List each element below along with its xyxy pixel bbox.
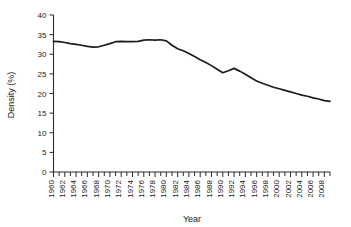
x-axis-title: Year (183, 214, 201, 224)
chart-container: 0510152025303540 19601962196419661968197… (0, 0, 351, 227)
x-tick-label: 1980 (159, 179, 168, 197)
series-line-density (54, 40, 331, 102)
x-tick-label: 2006 (306, 179, 315, 197)
y-tick-label: 20 (38, 90, 47, 99)
x-tick-label: 1990 (216, 179, 225, 197)
y-tick-label: 5 (42, 148, 47, 157)
y-tick-label: 10 (38, 129, 47, 138)
x-tick-label: 1966 (80, 179, 89, 197)
y-tick-label: 15 (38, 109, 47, 118)
y-tick-label: 0 (42, 168, 47, 177)
x-tick-label: 2002 (284, 179, 293, 197)
x-tick-label: 1968 (92, 179, 101, 197)
x-tick-label: 1998 (261, 179, 270, 197)
x-axis: 1960196219641966196819701972197419761978… (47, 172, 331, 198)
x-tick-label: 1992 (227, 179, 236, 197)
x-tick-label: 1970 (103, 179, 112, 197)
data-series (54, 40, 331, 102)
x-tick-label: 1976 (137, 179, 146, 197)
y-tick-label: 30 (38, 50, 47, 59)
x-tick-label: 1984 (182, 179, 191, 197)
line-chart: 0510152025303540 19601962196419661968197… (0, 0, 351, 227)
x-tick-label: 1964 (69, 179, 78, 197)
x-tick-label: 1974 (126, 179, 135, 197)
x-tick-label: 1960 (47, 179, 56, 197)
x-tick-label: 1994 (238, 179, 247, 197)
x-tick-label: 1972 (114, 179, 123, 197)
x-tick-label: 1986 (193, 179, 202, 197)
y-axis-title: Density (%) (6, 72, 16, 119)
y-axis: 0510152025303540 (38, 11, 54, 177)
x-tick-label: 2008 (317, 179, 326, 197)
x-tick-label: 1962 (58, 179, 67, 197)
y-tick-label: 35 (38, 31, 47, 40)
y-tick-label: 25 (38, 70, 47, 79)
x-tick-label: 1982 (171, 179, 180, 197)
x-tick-label: 1996 (250, 179, 259, 197)
x-tick-label: 1988 (205, 179, 214, 197)
x-tick-label: 2000 (272, 179, 281, 197)
x-tick-label: 1978 (148, 179, 157, 197)
x-tick-label: 2004 (295, 179, 304, 197)
y-tick-label: 40 (38, 11, 47, 20)
